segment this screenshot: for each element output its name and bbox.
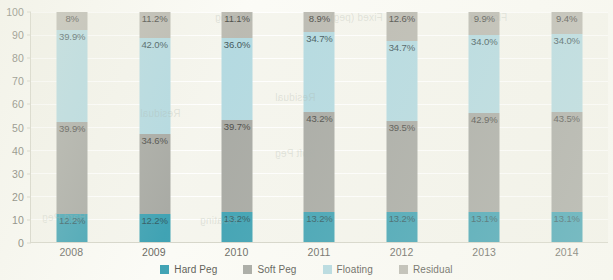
bar-segment-hard-peg[interactable]: 12.2% [139, 214, 170, 242]
legend-swatch-icon [399, 265, 408, 274]
bar-segment-residual[interactable]: 11.1% [222, 12, 253, 38]
bar-group-2014: 9.4%34.0%43.5%13.1% [526, 12, 608, 242]
bar-value-label: 8% [57, 13, 88, 24]
legend-item-residual[interactable]: Residual [399, 264, 453, 275]
bar-value-label: 34.6% [139, 135, 170, 146]
bar-stack: 11.1%36.0%39.7%13.2% [222, 12, 253, 242]
y-axis-tick-mark [27, 12, 31, 13]
bar-value-label: 13.2% [222, 213, 253, 224]
bar-segment-floating[interactable]: 34.7% [386, 41, 417, 121]
bar-value-label: 39.9% [57, 123, 88, 134]
stacked-bar-chart: 0102030405060708090100 8%39.9%39.9%12.2%… [0, 0, 613, 280]
legend-item-floating[interactable]: Floating [323, 264, 373, 275]
bar-group-2011: 8.9%34.7%43.2%13.2% [278, 12, 360, 242]
y-axis-tick-label: 70 [12, 75, 24, 87]
bar-value-label: 11.1% [222, 13, 253, 24]
bar-segment-floating[interactable]: 39.9% [57, 30, 88, 122]
bar-value-label: 34.7% [304, 33, 335, 44]
bar-value-label: 34.7% [386, 42, 417, 53]
x-axis-tick-2012: 2012 [360, 244, 443, 260]
y-axis-tick-mark [27, 35, 31, 36]
bar-segment-hard-peg[interactable]: 13.2% [222, 212, 253, 242]
x-axis-tick-2011: 2011 [278, 244, 361, 260]
bar-value-label: 34.0% [469, 36, 500, 47]
bar-segment-hard-peg[interactable]: 13.2% [304, 212, 335, 242]
bar-segment-soft-peg[interactable]: 42.9% [469, 113, 500, 212]
chart-legend: Hard PegSoft PegFloatingResidual [0, 262, 613, 276]
bar-group-2008: 8%39.9%39.9%12.2% [31, 12, 113, 242]
bar-stack: 9.9%34.0%42.9%13.1% [469, 12, 500, 242]
bar-segment-residual[interactable]: 9.4% [551, 12, 582, 34]
bar-segment-soft-peg[interactable]: 43.5% [551, 112, 582, 212]
bar-segment-floating[interactable]: 34.0% [551, 34, 582, 112]
bar-segment-hard-peg[interactable]: 13.2% [386, 212, 417, 242]
y-axis-tick-mark [27, 150, 31, 151]
bar-stack: 8.9%34.7%43.2%13.2% [304, 12, 335, 242]
bar-segment-residual[interactable]: 9.9% [469, 12, 500, 35]
x-axis-tick-2013: 2013 [443, 244, 526, 260]
x-axis-tick-2010: 2010 [195, 244, 278, 260]
bar-value-label: 42.0% [139, 39, 170, 50]
bar-value-label: 43.2% [304, 113, 335, 124]
legend-label: Hard Peg [174, 264, 217, 275]
legend-swatch-icon [160, 265, 169, 274]
legend-label: Floating [337, 264, 373, 275]
bar-segment-floating[interactable]: 34.7% [304, 32, 335, 112]
bar-segment-residual[interactable]: 12.6% [386, 12, 417, 41]
bar-value-label: 43.5% [551, 113, 582, 124]
y-axis-tick-label: 0 [18, 237, 24, 249]
bar-value-label: 9.4% [551, 13, 582, 24]
legend-item-hard-peg[interactable]: Hard Peg [160, 264, 217, 275]
y-axis-tick-label: 40 [12, 145, 24, 157]
bar-segment-floating[interactable]: 34.0% [469, 35, 500, 113]
y-axis-tick-mark [27, 104, 31, 105]
bar-segment-floating[interactable]: 36.0% [222, 38, 253, 121]
bar-segment-residual[interactable]: 11.2% [139, 12, 170, 38]
bar-value-label: 13.2% [386, 213, 417, 224]
bar-group-2012: 12.6%34.7%39.5%13.2% [361, 12, 443, 242]
y-axis-tick-label: 20 [12, 191, 24, 203]
bar-segment-floating[interactable]: 42.0% [139, 38, 170, 135]
plot-area: 8%39.9%39.9%12.2%11.2%42.0%34.6%12.2%11.… [30, 12, 608, 243]
y-axis-tick-label: 60 [12, 98, 24, 110]
bar-segment-soft-peg[interactable]: 39.5% [386, 121, 417, 212]
bar-group-2013: 9.9%34.0%42.9%13.1% [443, 12, 525, 242]
y-axis: 0102030405060708090100 [0, 12, 27, 243]
bar-stack: 9.4%34.0%43.5%13.1% [551, 12, 582, 242]
bar-segment-residual[interactable]: 8.9% [304, 12, 335, 32]
bar-segment-soft-peg[interactable]: 43.2% [304, 112, 335, 211]
x-axis: 2008200920102011201220132014 [30, 244, 608, 260]
bar-segment-hard-peg[interactable]: 12.2% [57, 214, 88, 242]
bar-segment-hard-peg[interactable]: 13.1% [469, 212, 500, 242]
bar-value-label: 8.9% [304, 13, 335, 24]
x-axis-tick-2009: 2009 [113, 244, 196, 260]
bar-segment-soft-peg[interactable]: 34.6% [139, 134, 170, 214]
bar-value-label: 36.0% [222, 39, 253, 50]
bar-value-label: 13.2% [304, 213, 335, 224]
y-axis-tick-label: 90 [12, 29, 24, 41]
bar-value-label: 39.7% [222, 121, 253, 132]
bar-stack: 8%39.9%39.9%12.2% [57, 12, 88, 242]
bar-segment-hard-peg[interactable]: 13.1% [551, 212, 582, 242]
bar-value-label: 42.9% [469, 114, 500, 125]
legend-item-soft-peg[interactable]: Soft Peg [243, 264, 296, 275]
bar-segment-soft-peg[interactable]: 39.7% [222, 120, 253, 211]
y-axis-tick-label: 10 [12, 214, 24, 226]
x-axis-tick-2008: 2008 [30, 244, 113, 260]
bar-value-label: 12.6% [386, 13, 417, 24]
y-axis-tick-mark [27, 173, 31, 174]
y-axis-tick-label: 50 [12, 122, 24, 134]
bar-segment-residual[interactable]: 8% [57, 12, 88, 30]
bar-value-label: 12.2% [57, 215, 88, 226]
legend-swatch-icon [323, 265, 332, 274]
x-axis-tick-2014: 2014 [525, 244, 608, 260]
bar-segment-soft-peg[interactable]: 39.9% [57, 122, 88, 214]
bar-series-container: 8%39.9%39.9%12.2%11.2%42.0%34.6%12.2%11.… [31, 12, 608, 242]
bar-value-label: 12.2% [139, 215, 170, 226]
bar-value-label: 39.9% [57, 31, 88, 42]
bar-stack: 11.2%42.0%34.6%12.2% [139, 12, 170, 242]
legend-label: Residual [413, 264, 453, 275]
bar-stack: 12.6%34.7%39.5%13.2% [386, 12, 417, 242]
y-axis-tick-mark [27, 196, 31, 197]
bar-group-2010: 11.1%36.0%39.7%13.2% [196, 12, 278, 242]
